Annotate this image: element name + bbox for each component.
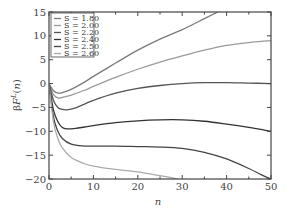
series-line-2 [49, 83, 271, 110]
x-tick-label: 20 [131, 181, 144, 192]
series-line-5 [49, 84, 178, 179]
y-tick-label: −15 [25, 150, 46, 161]
y-tick-label: −10 [25, 126, 46, 137]
x-tick-label: 30 [176, 181, 189, 192]
y-tick-label: −20 [25, 174, 46, 185]
x-axis-label: n [155, 196, 161, 207]
x-tick-label: 50 [265, 181, 278, 192]
y-tick-label: 5 [40, 54, 46, 65]
svg-text:βFL(n): βFL(n) [10, 79, 22, 111]
y-axis-label: βFL(n) [10, 79, 22, 111]
legend-label: S = 2.60 [64, 49, 99, 58]
y-tick-label: 0 [40, 78, 46, 89]
x-tick-label: 10 [87, 181, 100, 192]
x-tick-label: 0 [46, 181, 52, 192]
y-tick-label: 10 [33, 30, 46, 41]
legend: S = 1.80S = 2.00S = 2.20S = 2.40S = 2.50… [51, 13, 99, 58]
y-tick-label: −5 [31, 102, 46, 113]
chart: 01020304050−20−15−10−5051015 n βFL(n) S … [0, 0, 290, 210]
series-line-4 [49, 84, 271, 179]
y-tick-label: 15 [33, 7, 46, 18]
x-tick-label: 40 [220, 181, 233, 192]
